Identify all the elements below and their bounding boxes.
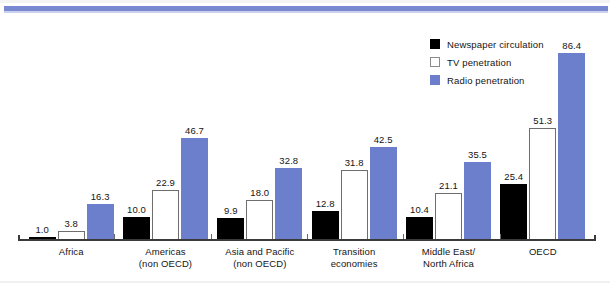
category-label-line1: Transition — [333, 246, 375, 257]
bar-value-label: 51.3 — [533, 115, 552, 126]
bar — [123, 217, 150, 239]
x-axis-left-cap — [18, 235, 20, 241]
bar — [435, 193, 462, 239]
bar-value-label: 9.9 — [224, 205, 238, 216]
bar-groups: 1.03.816.310.022.946.79.918.032.812.831.… — [24, 21, 590, 239]
bar-value-label: 31.8 — [345, 157, 364, 168]
bar-value-label: 16.3 — [91, 191, 110, 202]
x-axis-tick — [211, 234, 212, 239]
x-axis-tick — [500, 234, 501, 239]
bar-column: 46.7 — [181, 21, 208, 239]
bar — [217, 218, 244, 239]
bar-column: 9.9 — [217, 21, 244, 239]
bar-value-label: 86.4 — [562, 40, 581, 51]
bar-value-label: 1.0 — [35, 224, 49, 235]
category-label-line2: (non OECD) — [118, 258, 212, 270]
bar — [312, 211, 339, 239]
x-axis-right-cap — [594, 235, 596, 241]
bar-value-label: 3.8 — [64, 218, 78, 229]
bar-value-label: 10.0 — [127, 204, 146, 215]
x-axis-category-label: Americas(non OECD) — [118, 246, 212, 269]
category-label-line1: Asia and Pacific — [225, 246, 294, 257]
bar-group: 1.03.816.3 — [24, 21, 118, 239]
bar — [529, 128, 556, 239]
x-axis-tick — [307, 234, 308, 239]
bar-value-label: 10.4 — [410, 204, 429, 215]
bar-column: 1.0 — [29, 21, 56, 239]
bar-value-label: 12.8 — [316, 198, 335, 209]
bar-column: 3.8 — [58, 21, 85, 239]
bar-group: 10.022.946.7 — [118, 21, 212, 239]
bar-value-label: 25.4 — [504, 171, 523, 182]
bar-column: 51.3 — [529, 21, 556, 239]
bar-column: 21.1 — [435, 21, 462, 239]
x-axis-category-label: Asia and Pacific(non OECD) — [213, 246, 307, 269]
x-axis-line — [18, 239, 596, 241]
x-axis-category-label: Transitioneconomies — [307, 246, 401, 269]
bar — [181, 138, 208, 239]
bar-value-label: 18.0 — [250, 187, 269, 198]
bar-group: 12.831.842.5 — [307, 21, 401, 239]
bar-group: 25.451.386.4 — [496, 21, 590, 239]
x-axis-category-label: OECD — [496, 246, 590, 269]
category-label-line2: North Africa — [401, 258, 495, 270]
bar-chart-figure: Newspaper circulation TV penetration Rad… — [0, 13, 610, 283]
bar — [58, 231, 85, 239]
bar — [464, 162, 491, 239]
bar-value-label: 22.9 — [156, 177, 175, 188]
bar-column: 12.8 — [312, 21, 339, 239]
bar — [558, 53, 585, 239]
bar-column: 10.4 — [406, 21, 433, 239]
bar-column: 16.3 — [87, 21, 114, 239]
bar — [370, 147, 397, 239]
category-label-line1: Middle East/ — [422, 246, 475, 257]
bar — [246, 200, 273, 239]
bar-column: 22.9 — [152, 21, 179, 239]
x-axis-tick — [403, 234, 404, 239]
category-label-line1: OECD — [529, 246, 557, 257]
bar — [87, 204, 114, 239]
bar — [275, 168, 302, 239]
bar-value-label: 21.1 — [439, 180, 458, 191]
category-label-line1: Africa — [59, 246, 84, 257]
x-axis-tick — [114, 234, 115, 239]
bar-value-label: 35.5 — [468, 149, 487, 160]
x-axis-category-labels: AfricaAmericas(non OECD)Asia and Pacific… — [24, 246, 590, 269]
bar-value-label: 46.7 — [185, 125, 204, 136]
bar-column: 35.5 — [464, 21, 491, 239]
bar-column: 86.4 — [558, 21, 585, 239]
x-axis-category-label: Africa — [24, 246, 118, 269]
bar-value-label: 32.8 — [279, 155, 298, 166]
x-axis-category-label: Middle East/North Africa — [401, 246, 495, 269]
plot-area: 1.03.816.310.022.946.79.918.032.812.831.… — [24, 21, 590, 239]
bar-column: 42.5 — [370, 21, 397, 239]
category-label-line1: Americas — [145, 246, 185, 257]
bar-column: 10.0 — [123, 21, 150, 239]
bar — [152, 190, 179, 239]
bar — [341, 170, 368, 239]
bar — [406, 217, 433, 239]
bar-column: 31.8 — [341, 21, 368, 239]
bar-column: 18.0 — [246, 21, 273, 239]
category-label-line2: economies — [307, 258, 401, 270]
bar-column: 25.4 — [500, 21, 527, 239]
bar-column: 32.8 — [275, 21, 302, 239]
bar — [500, 184, 527, 239]
bar-group: 9.918.032.8 — [213, 21, 307, 239]
bar-value-label: 42.5 — [374, 134, 393, 145]
scan-edge-top — [0, 0, 610, 3]
category-label-line2: (non OECD) — [213, 258, 307, 270]
bar-group: 10.421.135.5 — [401, 21, 495, 239]
